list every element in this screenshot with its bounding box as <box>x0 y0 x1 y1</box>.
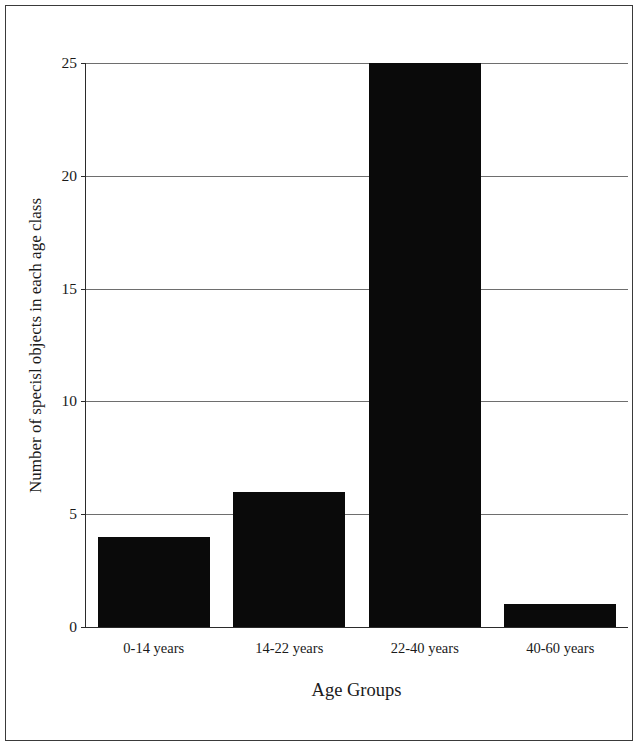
y-tick-mark <box>81 627 86 628</box>
y-axis-title-text: Number of specisl objects in each age cl… <box>28 198 45 493</box>
bar <box>369 63 481 627</box>
bar-series <box>86 63 628 627</box>
y-tick-label: 5 <box>69 506 77 522</box>
y-tick-label: 25 <box>62 55 78 71</box>
y-tick-label: 20 <box>62 168 78 184</box>
x-tick-label: 14-22 years <box>255 641 323 656</box>
y-tick-label: 10 <box>62 394 78 410</box>
bar <box>98 537 210 627</box>
y-tick-label: 15 <box>62 281 78 297</box>
figure-frame: Number of specisl objects in each age cl… <box>5 5 633 741</box>
x-tick-label: 22-40 years <box>391 641 459 656</box>
y-tick-label: 0 <box>69 619 77 635</box>
plot-area: 0510152025 0-14 years14-22 years22-40 ye… <box>85 63 628 628</box>
x-axis-title-text: Age Groups <box>312 680 402 700</box>
bar <box>233 492 345 627</box>
x-tick-label: 40-60 years <box>526 641 594 656</box>
y-axis-title: Number of specisl objects in each age cl… <box>23 63 49 628</box>
bar <box>504 604 616 627</box>
x-tick-label: 0-14 years <box>123 641 184 656</box>
x-axis-title: Age Groups <box>85 681 628 700</box>
